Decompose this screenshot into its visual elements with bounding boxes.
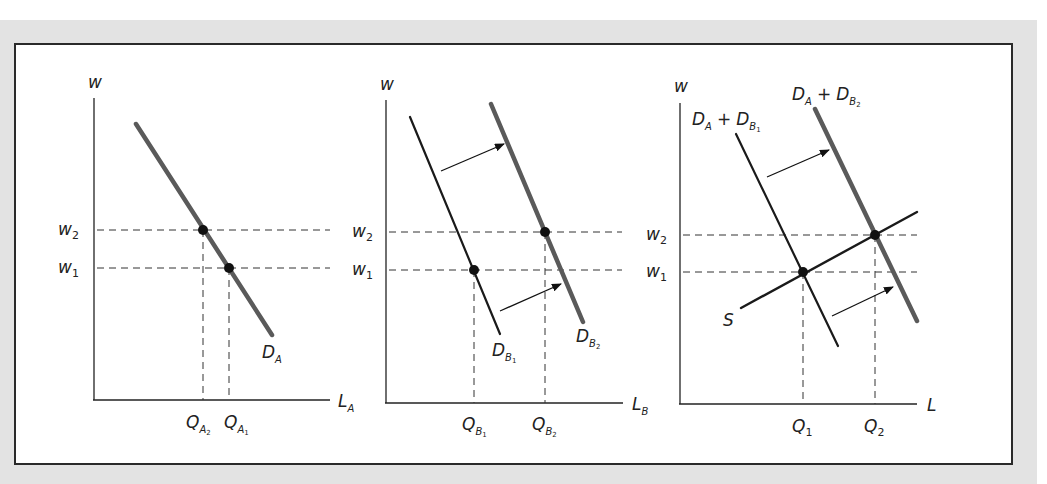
demand-curve-db2 xyxy=(491,104,583,322)
equilibrium-point-a1 xyxy=(224,263,234,273)
equilibrium-point-a2 xyxy=(198,225,208,235)
q-label-b1: QB1 xyxy=(462,414,487,439)
supply-curve xyxy=(741,212,917,308)
shift-arrow-upper xyxy=(767,150,829,177)
guide-lines xyxy=(389,232,622,403)
w1-label: w1 xyxy=(646,261,667,284)
x-axis-label: LB xyxy=(632,394,648,417)
equilibrium-point-2 xyxy=(870,230,880,240)
shift-arrow-lower xyxy=(500,284,561,311)
q-label-2: Q2 xyxy=(864,416,884,439)
curve-label-db2: DB2 xyxy=(576,326,600,351)
q-label-a2: QA2 xyxy=(186,412,211,437)
labor-market-figure: w LA w2 w1 DA QA2 QA1 w LB xyxy=(0,0,1047,484)
w2-label: w2 xyxy=(646,224,667,247)
panel-a: w LA w2 w1 DA QA2 QA1 xyxy=(58,72,354,437)
demand-curve-da-db1 xyxy=(736,134,838,346)
demand-curve-da-db2 xyxy=(815,109,917,321)
y-axis-label: w xyxy=(380,74,394,94)
w2-label: w2 xyxy=(58,219,79,242)
curve-label-da: DA xyxy=(262,342,282,365)
shift-arrow-upper xyxy=(441,144,504,171)
panel-b: w LB w2 w1 DB1 DB2 QB1 QB2 xyxy=(352,74,648,439)
y-axis-label: w xyxy=(88,72,102,92)
panel-aggregate: w L w2 w1 DA+DB1 DA+DB2 S Q1 Q2 xyxy=(646,76,936,439)
supply-label: S xyxy=(723,310,734,330)
curve-label-db1: DB1 xyxy=(492,340,516,365)
q-label-b2: QB2 xyxy=(532,414,557,439)
demand-curve-db1 xyxy=(410,117,500,334)
q-label-1: Q1 xyxy=(792,416,812,439)
curve-label-da-db1: DA+DB1 xyxy=(692,109,761,134)
w1-label: w1 xyxy=(58,257,79,280)
w2-label: w2 xyxy=(352,221,373,244)
q-label-a1: QA1 xyxy=(224,412,249,437)
curve-label-da-db2: DA+DB2 xyxy=(792,84,861,109)
w1-label: w1 xyxy=(352,259,373,282)
equilibrium-point-1 xyxy=(798,267,808,277)
guide-lines xyxy=(97,230,330,400)
equilibrium-point-b2 xyxy=(540,227,550,237)
x-axis-label: LA xyxy=(338,391,354,414)
x-axis-label: L xyxy=(927,395,936,415)
equilibrium-point-b1 xyxy=(469,265,479,275)
shift-arrow-lower xyxy=(832,287,893,316)
guide-lines xyxy=(683,235,917,404)
y-axis-label: w xyxy=(674,76,688,96)
